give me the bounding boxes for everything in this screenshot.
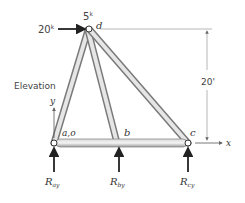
reaction-label-a: Ray (44, 176, 60, 189)
joint-c (185, 140, 191, 146)
joint-label-c: c (190, 127, 196, 138)
vertical-load-value: 5k (83, 10, 93, 22)
elevation-label: Elevation (14, 81, 56, 91)
horizontal-load-value: 20k (38, 23, 55, 35)
reaction-label-c: Rcy (179, 176, 195, 189)
joint-a (51, 140, 57, 146)
reaction-label-b: Rby (109, 176, 125, 189)
y-axis-label: y (49, 96, 56, 106)
member-ac (56, 139, 187, 147)
height-dimension: 20' (201, 77, 215, 87)
truss-diagram: 20k 5k d a,o b c Elevation y x 20' Ray R… (0, 0, 245, 203)
joint-label-a: a,o (62, 128, 76, 138)
joint-label-b: b (124, 127, 130, 138)
x-axis-label: x (226, 138, 231, 148)
joint-d (86, 26, 92, 32)
